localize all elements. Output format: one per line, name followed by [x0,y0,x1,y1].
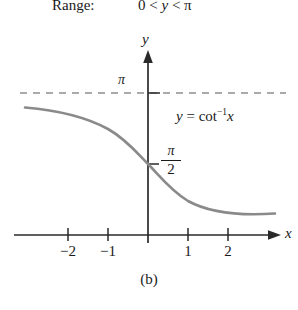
x-tick-label-2: 2 [215,243,241,260]
equation-lhs: y [176,108,183,124]
y-axis-label: y [142,32,149,47]
y-tick-label-pi: π [118,73,125,87]
arccot-curve [25,108,275,215]
x-tick-label-minus-1: −1 [95,243,121,260]
x-tick-label-minus-2: −2 [55,243,81,260]
equation-exponent: −1 [217,107,227,117]
x-axis-label: x [285,226,292,241]
plot-canvas [0,0,298,310]
y-axis-arrowhead [143,50,153,63]
equation-function-name: cot [199,108,217,124]
y-tick-label-pi-over-2: π 2 [159,144,183,178]
equation-argument: x [227,108,234,124]
equation-equals: = [186,108,194,124]
pi-over-2-numerator: π [159,144,183,159]
inverse-cotangent-figure: Range: 0 < y < π y x π π 2 y = cot−1x [0,0,298,310]
x-axis-arrowhead [268,230,281,240]
x-tick-label-1: 1 [175,243,201,260]
equation-label: y = cot−1x [176,108,234,124]
figure-caption: (b) [0,272,298,287]
pi-over-2-denominator: 2 [159,162,183,178]
